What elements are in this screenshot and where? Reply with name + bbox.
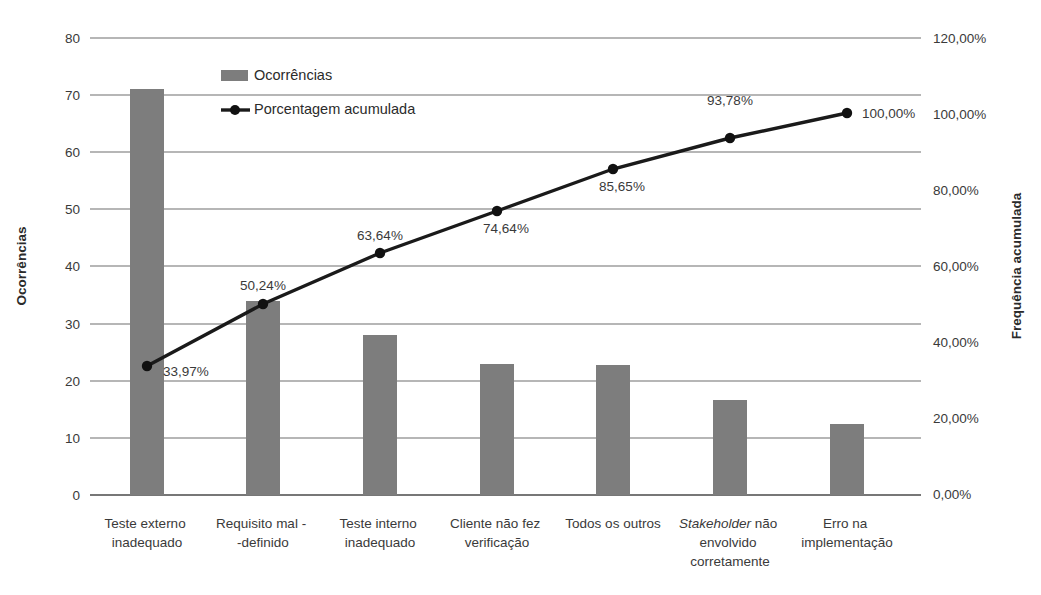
category-label-2: Requisito mal - -definido: [216, 516, 310, 550]
data-label-5: 85,65%: [599, 179, 645, 194]
left-tick-20: 20: [65, 374, 80, 389]
cat6-line1: Stakeholder não: [679, 516, 777, 531]
left-tick-50: 50: [65, 202, 80, 217]
category-label-1: Teste externo inadequado: [105, 516, 190, 550]
cat6-stakeholder: Stakeholder: [679, 516, 752, 531]
right-tick-100: 100,00%: [933, 107, 986, 122]
marker-6[interactable]: [725, 133, 735, 143]
chart-title-text: Gráfico de Pareto das causas dos defeito…: [120, 0, 1041, 5]
bar-5[interactable]: [596, 365, 630, 495]
right-axis-ticks: 120,00% 100,00% 80,00% 60,00% 40,00% 20,…: [933, 31, 986, 502]
category-label-6: Stakeholder não envolvido corretamente: [679, 516, 781, 569]
data-label-3: 63,64%: [357, 228, 403, 243]
data-label-4: 74,64%: [483, 221, 529, 236]
category-label-7: Erro na implementação: [801, 516, 893, 550]
pareto-chart: Gráfico de Pareto das causas dos defeito…: [0, 0, 1041, 595]
cat6-line3: corretamente: [690, 554, 770, 569]
right-axis-title: Frequência acumulada: [1009, 192, 1024, 339]
marker-2[interactable]: [258, 299, 268, 309]
bar-7[interactable]: [830, 424, 864, 495]
left-tick-10: 10: [65, 431, 80, 446]
cat4-line2: verificação: [465, 535, 530, 550]
data-label-1: 33,97%: [163, 364, 209, 379]
marker-7[interactable]: [842, 108, 852, 118]
category-label-5: Todos os outros: [565, 516, 661, 531]
bar-6[interactable]: [713, 400, 747, 495]
right-tick-80: 80,00%: [933, 183, 979, 198]
cat3-line1: Teste interno: [339, 516, 416, 531]
cat7-line1: Erro na: [823, 516, 868, 531]
right-tick-40: 40,00%: [933, 335, 979, 350]
legend-dot-cumulative: [230, 105, 240, 115]
category-label-4: Cliente não fez verificação: [450, 516, 544, 550]
chart-title-cutoff: Gráfico de Pareto das causas dos defeito…: [0, 0, 1041, 10]
legend: Ocorrências Porcentagem acumulada: [221, 67, 416, 117]
left-tick-0: 0: [72, 488, 80, 503]
cat7-line2: implementação: [801, 535, 893, 550]
left-tick-70: 70: [65, 88, 80, 103]
right-tick-20: 20,00%: [933, 411, 979, 426]
cat2-line1: Requisito mal -: [216, 516, 306, 531]
cat4-line1: Cliente não fez: [450, 516, 540, 531]
marker-3[interactable]: [375, 248, 385, 258]
legend-label-porcentagem[interactable]: Porcentagem acumulada: [254, 101, 416, 117]
cat1-line1: Teste externo: [105, 516, 186, 531]
bar-3[interactable]: [363, 335, 397, 495]
left-axis-ticks: 80 70 60 50 40 30 20 10 0: [65, 31, 80, 503]
legend-swatch-bar: [221, 70, 248, 81]
left-tick-80: 80: [65, 31, 80, 46]
legend-label-ocorrencias[interactable]: Ocorrências: [254, 67, 332, 83]
category-labels: Teste externo inadequado Requisito mal -…: [105, 516, 893, 569]
category-label-3: Teste interno inadequado: [339, 516, 420, 550]
right-tick-120: 120,00%: [933, 31, 986, 46]
cat6-line2: envolvido: [700, 535, 757, 550]
left-tick-60: 60: [65, 145, 80, 160]
marker-1[interactable]: [142, 361, 152, 371]
right-tick-0: 0,00%: [933, 487, 971, 502]
chart-canvas: 80 70 60 50 40 30 20 10 0 120,00% 100,00…: [0, 0, 1041, 595]
left-axis-title: Ocorrências: [14, 227, 29, 306]
cat1-line2: inadequado: [112, 535, 183, 550]
left-tick-40: 40: [65, 259, 80, 274]
bar-2[interactable]: [246, 301, 280, 495]
bar-1[interactable]: [130, 89, 164, 495]
data-label-6: 93,78%: [707, 93, 753, 108]
cat3-line2: inadequado: [345, 535, 416, 550]
left-tick-30: 30: [65, 317, 80, 332]
marker-4[interactable]: [492, 206, 502, 216]
right-tick-60: 60,00%: [933, 259, 979, 274]
bar-4[interactable]: [480, 364, 514, 495]
cat2-line2: -definido: [237, 535, 289, 550]
data-label-7: 100,00%: [862, 106, 915, 121]
data-label-2: 50,24%: [240, 278, 286, 293]
marker-5[interactable]: [608, 164, 618, 174]
cat5-line1: Todos os outros: [565, 516, 661, 531]
